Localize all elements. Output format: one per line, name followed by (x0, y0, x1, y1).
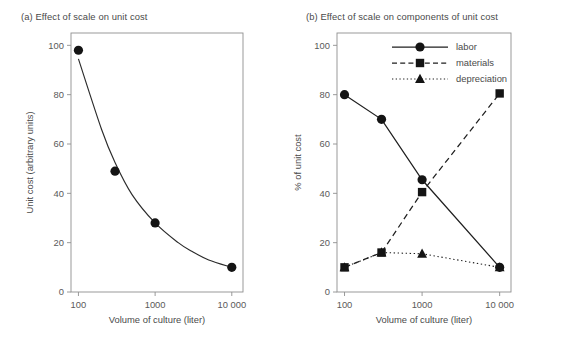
plot-frame (71, 33, 243, 292)
series-labor (340, 90, 504, 272)
x-tick-label: 1000 (412, 299, 433, 310)
data-point (340, 90, 349, 99)
legend-label: materials (456, 57, 494, 68)
x-axis-label: Volume of culture (liter) (109, 314, 205, 325)
data-point (227, 263, 236, 272)
x-tick-label: 100 (71, 299, 87, 310)
y-tick-label: 80 (320, 89, 330, 100)
x-tick-label: 100 (337, 299, 353, 310)
y-tick-label: 0 (59, 286, 64, 297)
legend-label: labor (456, 41, 477, 52)
data-point (417, 175, 426, 184)
series-depreciation (340, 247, 505, 271)
x-tick-label: 10 000 (217, 299, 246, 310)
fit-curve (78, 59, 231, 267)
panel-a: (a) Effect of scale on unit cost 0204060… (0, 0, 287, 349)
panel-b: (b) Effect of scale on components of uni… (287, 0, 573, 349)
series-unit-cost (74, 46, 237, 272)
y-tick-label: 40 (54, 188, 64, 199)
panel-a-plot: 020406080100100100010 000Volume of cultu… (0, 0, 287, 349)
y-tick-label: 100 (48, 40, 64, 51)
legend-marker (415, 74, 425, 83)
panel-a-title: (a) Effect of scale on unit cost (21, 11, 148, 22)
y-tick-label: 20 (54, 237, 64, 248)
legend-marker (416, 59, 424, 67)
panel-b-plot: 020406080100100100010 000Volume of cultu… (287, 0, 573, 349)
x-tick-label: 1000 (145, 299, 166, 310)
y-tick-label: 0 (325, 286, 330, 297)
y-tick-label: 80 (54, 89, 64, 100)
legend-marker (415, 42, 424, 51)
data-point (151, 218, 160, 227)
y-tick-label: 100 (314, 40, 330, 51)
y-tick-label: 40 (320, 188, 330, 199)
y-tick-label: 60 (320, 138, 330, 149)
y-tick-label: 60 (54, 138, 64, 149)
data-point (377, 115, 386, 124)
x-tick-label: 10 000 (485, 299, 514, 310)
y-axis-label: % of unit cost (292, 134, 303, 191)
legend: labormaterialsdepreciation (392, 41, 507, 84)
x-axis-label: Volume of culture (liter) (376, 314, 472, 325)
y-axis-label: Unit cost (arbitrary units) (24, 111, 35, 213)
data-point (74, 46, 83, 55)
panel-b-title: (b) Effect of scale on components of uni… (306, 11, 498, 22)
y-tick-label: 20 (320, 237, 330, 248)
figure: (a) Effect of scale on unit cost 0204060… (0, 0, 573, 349)
data-point (418, 188, 426, 196)
data-point (110, 167, 119, 176)
legend-label: depreciation (456, 73, 507, 84)
data-point (495, 89, 503, 97)
